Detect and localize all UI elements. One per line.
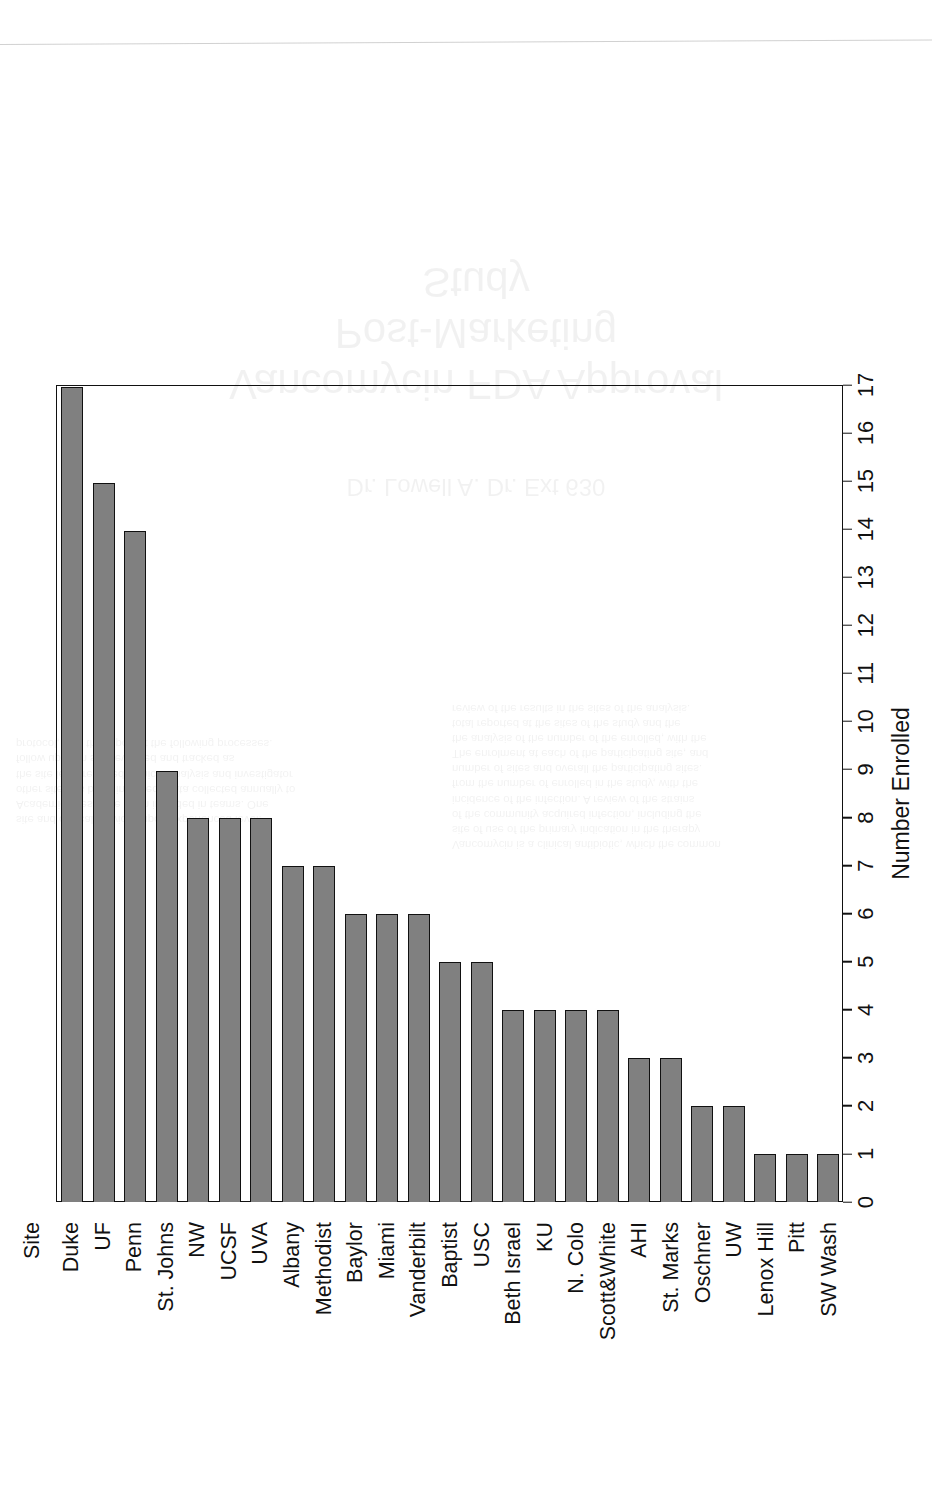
bar xyxy=(376,914,398,1202)
category-label: N. Colo xyxy=(565,1210,587,1496)
category-label: USC xyxy=(471,1210,493,1496)
category-label: UCSF xyxy=(218,1210,240,1496)
bar-row xyxy=(282,386,304,1201)
axis-tick xyxy=(843,721,852,722)
bar xyxy=(156,771,178,1202)
category-label: KU xyxy=(534,1210,556,1496)
bar-row xyxy=(534,386,556,1201)
axis-tick-label: 8 xyxy=(855,811,877,823)
bar-row xyxy=(93,386,115,1201)
axis-tick xyxy=(843,625,852,626)
bar-row xyxy=(61,386,83,1201)
bar xyxy=(219,818,241,1202)
bar-row xyxy=(786,386,808,1201)
bar-row xyxy=(471,386,493,1201)
axis-tick-label: 4 xyxy=(855,1004,877,1016)
axis-tick-label: 9 xyxy=(855,763,877,775)
axis-tick-label: 17 xyxy=(855,373,877,397)
category-label: St. Johns xyxy=(155,1210,177,1496)
bar xyxy=(471,962,493,1202)
bar xyxy=(61,387,83,1202)
bar-row xyxy=(565,386,587,1201)
category-axis-labels: DukeUFPennSt. JohnsNWUCSFUVAAlbanyMethod… xyxy=(56,1210,843,1496)
value-axis-title: Number Enrolled xyxy=(888,385,915,1202)
bar-row xyxy=(219,386,241,1201)
category-label: Vanderbilt xyxy=(407,1210,429,1496)
bar xyxy=(660,1058,682,1202)
bar xyxy=(408,914,430,1202)
plot-area xyxy=(56,385,843,1202)
bar xyxy=(565,1010,587,1202)
axis-tick xyxy=(843,384,852,385)
axis-tick xyxy=(843,1201,852,1202)
axis-tick xyxy=(843,528,852,529)
axis-tick xyxy=(843,673,852,674)
axis-tick-label: 12 xyxy=(855,613,877,637)
category-label: Duke xyxy=(60,1210,82,1496)
bar-row xyxy=(439,386,461,1201)
axis-tick-label: 5 xyxy=(855,956,877,968)
bar-row xyxy=(408,386,430,1201)
axis-tick xyxy=(843,1009,852,1010)
axis-tick xyxy=(843,913,852,914)
axis-tick-label: 13 xyxy=(855,565,877,589)
bar xyxy=(754,1154,776,1202)
bar xyxy=(345,914,367,1202)
axis-tick-label: 6 xyxy=(855,908,877,920)
axis-tick-label: 15 xyxy=(855,469,877,493)
axis-tick xyxy=(843,577,852,578)
bar-row xyxy=(597,386,619,1201)
value-axis: 01234567891011121314151617 xyxy=(843,385,844,1202)
bar-row xyxy=(376,386,398,1201)
bar-series xyxy=(57,386,842,1201)
bar xyxy=(502,1010,524,1202)
axis-tick-label: 16 xyxy=(855,421,877,445)
bar xyxy=(723,1106,745,1202)
bar xyxy=(817,1154,839,1202)
bar-row xyxy=(691,386,713,1201)
axis-tick-label: 11 xyxy=(855,662,877,685)
category-label: Beth Israel xyxy=(502,1210,524,1496)
bar-row xyxy=(156,386,178,1201)
category-label: UW xyxy=(723,1210,745,1496)
bar xyxy=(250,818,272,1202)
axis-tick-label: 7 xyxy=(855,859,877,871)
category-label: NW xyxy=(186,1210,208,1496)
axis-tick xyxy=(843,1105,852,1106)
axis-tick-label: 10 xyxy=(855,709,877,733)
bar-row xyxy=(250,386,272,1201)
category-label: Oschner xyxy=(692,1210,714,1496)
category-label: Lenox Hill xyxy=(755,1210,777,1496)
bar xyxy=(597,1010,619,1202)
category-label: Baptist xyxy=(439,1210,461,1496)
category-label: AHI xyxy=(628,1210,650,1496)
bar xyxy=(691,1106,713,1202)
bar xyxy=(439,962,461,1202)
axis-tick-label: 3 xyxy=(855,1052,877,1064)
axis-tick-label: 0 xyxy=(855,1196,877,1208)
bar-row xyxy=(817,386,839,1201)
bar xyxy=(534,1010,556,1202)
axis-tick xyxy=(843,432,852,433)
bar-row xyxy=(124,386,146,1201)
bar-row xyxy=(502,386,524,1201)
axis-tick xyxy=(843,480,852,481)
category-label: St. Marks xyxy=(660,1210,682,1496)
axis-tick-label: 1 xyxy=(855,1148,877,1160)
bar xyxy=(786,1154,808,1202)
axis-tick xyxy=(843,769,852,770)
bar-row xyxy=(723,386,745,1201)
category-label: Baylor xyxy=(344,1210,366,1496)
bar xyxy=(124,531,146,1202)
bar-row xyxy=(313,386,335,1201)
bar-row xyxy=(187,386,209,1201)
axis-tick-label: 2 xyxy=(855,1100,877,1112)
axis-tick xyxy=(843,961,852,962)
bar-row xyxy=(345,386,367,1201)
bar-row xyxy=(628,386,650,1201)
category-label: Penn xyxy=(123,1210,145,1496)
category-label: Scott&White xyxy=(597,1210,619,1496)
axis-tick xyxy=(843,1153,852,1154)
axis-tick xyxy=(843,1057,852,1058)
bar xyxy=(313,866,335,1202)
